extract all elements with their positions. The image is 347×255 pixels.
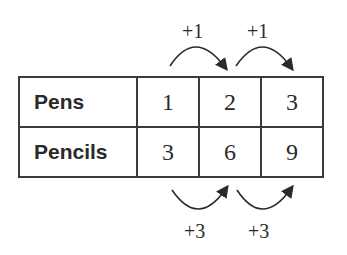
arrow-bottom-2 — [237, 190, 290, 209]
cell: 2 — [199, 77, 261, 127]
annotation-top-2: +1 — [247, 20, 268, 43]
arrow-bottom-1 — [172, 190, 225, 209]
cell: 3 — [261, 77, 323, 127]
cell: 9 — [261, 127, 323, 177]
cell: 1 — [137, 77, 199, 127]
annotation-bottom-2: +3 — [248, 220, 269, 243]
cell: 6 — [199, 127, 261, 177]
annotation-bottom-1: +3 — [184, 220, 205, 243]
row-label: Pens — [19, 77, 137, 127]
ratio-table: Pens 1 2 3 Pencils 3 6 9 — [18, 76, 324, 178]
table-row-pencils: Pencils 3 6 9 — [19, 127, 323, 177]
table-row-pens: Pens 1 2 3 — [19, 77, 323, 127]
annotation-top-1: +1 — [182, 20, 203, 43]
row-label: Pencils — [19, 127, 137, 177]
arrow-top-2 — [236, 47, 290, 66]
cell: 3 — [137, 127, 199, 177]
arrow-top-1 — [170, 47, 224, 66]
